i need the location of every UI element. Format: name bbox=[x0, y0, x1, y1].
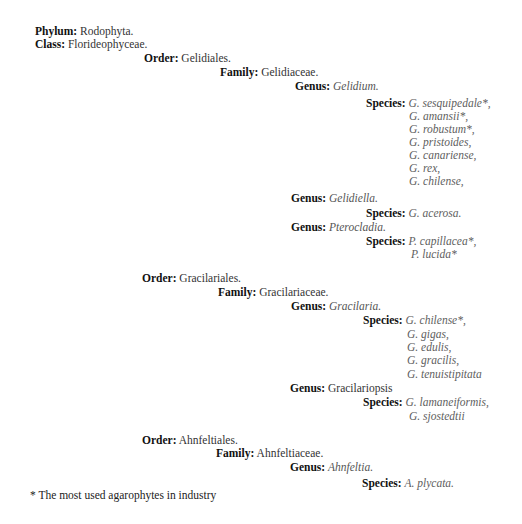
species-item: G. chilense*, bbox=[405, 314, 465, 326]
species-label: Species: bbox=[366, 97, 406, 109]
species-item: G. gracilis, bbox=[407, 354, 459, 367]
phylum-label: Phylum: bbox=[35, 25, 77, 37]
family-label: Family: bbox=[220, 66, 258, 78]
genus-label: Genus: bbox=[291, 300, 326, 312]
genus-value: Gracilaria. bbox=[329, 300, 381, 312]
species-label: Species: bbox=[366, 235, 406, 247]
phylum-value: Rodophyta. bbox=[80, 25, 133, 37]
species-row: Species: P. capillacea*, bbox=[366, 235, 476, 248]
genus-label: Genus: bbox=[295, 80, 330, 92]
order-row: Order: Gelidiales. bbox=[144, 52, 231, 65]
family-row: Family: Gelidiaceae. bbox=[220, 66, 318, 79]
genus-row: Genus: Gracilariopsis bbox=[290, 382, 393, 395]
footnote: * The most used agarophytes in industry bbox=[30, 489, 216, 502]
genus-value: Pterocladia. bbox=[329, 221, 386, 233]
species-item: G. canariense, bbox=[409, 149, 476, 162]
genus-row: Genus: Ahnfeltia. bbox=[290, 461, 373, 474]
order-label: Order: bbox=[142, 272, 176, 284]
genus-label: Genus: bbox=[290, 382, 325, 394]
order-label: Order: bbox=[144, 52, 178, 64]
family-label: Family: bbox=[216, 447, 254, 459]
species-item: G. chilense, bbox=[409, 175, 464, 188]
genus-value: Gracilariopsis bbox=[328, 382, 393, 394]
family-row: Family: Gracilariaceae. bbox=[218, 286, 328, 299]
order-row: Order: Ahnfeltiales. bbox=[142, 434, 238, 447]
order-label: Order: bbox=[142, 434, 176, 446]
species-label: Species: bbox=[363, 314, 403, 326]
species-item: G. amansii*, bbox=[409, 110, 468, 123]
species-item: G. pristoides, bbox=[409, 136, 471, 149]
genus-label: Genus: bbox=[291, 192, 326, 204]
order-row: Order: Gracilariales. bbox=[142, 272, 241, 285]
species-row: Species: G. sesquipedale*, bbox=[366, 97, 491, 110]
species-label: Species: bbox=[363, 396, 403, 408]
species-item: P. lucida* bbox=[411, 248, 457, 261]
genus-label: Genus: bbox=[290, 461, 325, 473]
species-item: G. gigas, bbox=[407, 328, 449, 341]
species-item: G. acerosa. bbox=[408, 207, 461, 219]
species-row: Species: G. chilense*, bbox=[363, 314, 466, 327]
species-item: G. lamaneiformis, bbox=[405, 396, 488, 408]
species-row: Species: A. plycata. bbox=[362, 477, 454, 490]
species-item: G. sjostedtii bbox=[409, 410, 465, 423]
family-value: Gelidiaceae. bbox=[261, 66, 318, 78]
family-value: Ahnfeltiaceae. bbox=[257, 447, 324, 459]
genus-value: Gelidiella. bbox=[329, 192, 378, 204]
genus-value: Ahnfeltia. bbox=[328, 461, 373, 473]
species-item: G. tenuistipitata bbox=[407, 368, 482, 381]
class-label: Class: bbox=[35, 38, 65, 50]
species-label: Species: bbox=[362, 477, 402, 489]
family-value: Gracilariaceae. bbox=[259, 286, 328, 298]
genus-row: Genus: Gracilaria. bbox=[291, 300, 381, 313]
genus-value: Gelidium. bbox=[333, 80, 379, 92]
family-row: Family: Ahnfeltiaceae. bbox=[216, 447, 323, 460]
species-row: Species: G. lamaneiformis, bbox=[363, 396, 489, 409]
species-item: G. sesquipedale*, bbox=[408, 97, 490, 109]
species-item: P. capillacea*, bbox=[408, 235, 476, 247]
genus-row: Genus: Gelidium. bbox=[295, 80, 379, 93]
class-row: Class: Florideophyceae. bbox=[35, 38, 147, 51]
genus-label: Genus: bbox=[291, 221, 326, 233]
class-value: Florideophyceae. bbox=[68, 38, 148, 50]
species-label: Species: bbox=[366, 207, 406, 219]
species-item: G. robustum*, bbox=[409, 123, 475, 136]
genus-row: Genus: Pterocladia. bbox=[291, 221, 386, 234]
phylum-row: Phylum: Rodophyta. bbox=[35, 25, 133, 38]
family-label: Family: bbox=[218, 286, 256, 298]
order-value: Gelidiales. bbox=[181, 52, 231, 64]
species-item: G. rex, bbox=[409, 162, 440, 175]
order-value: Ahnfeltiales. bbox=[179, 434, 238, 446]
genus-row: Genus: Gelidiella. bbox=[291, 192, 378, 205]
species-item: G. edulis, bbox=[407, 341, 451, 354]
species-row: Species: G. acerosa. bbox=[366, 207, 461, 220]
order-value: Gracilariales. bbox=[179, 272, 241, 284]
species-item: A. plycata. bbox=[404, 477, 454, 489]
